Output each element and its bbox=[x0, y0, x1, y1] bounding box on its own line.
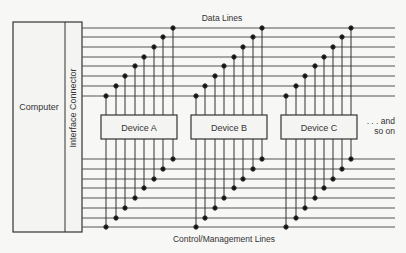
computer-block: Computer Interface Connector bbox=[13, 22, 82, 232]
device-b-label: Device B bbox=[211, 123, 247, 133]
device-a-label: Device A bbox=[121, 123, 157, 133]
device-b-box: Device B bbox=[191, 115, 267, 139]
bus-diagram: Computer Interface Connector bbox=[0, 0, 406, 253]
device-c-box: Device C bbox=[281, 115, 357, 139]
data-lines bbox=[82, 28, 395, 96]
continuation-label-line2: so on bbox=[374, 126, 395, 136]
computer-label: Computer bbox=[19, 102, 59, 112]
control-lines-label: Control/Management Lines bbox=[173, 234, 275, 244]
interface-connector-label: Interface Connector bbox=[68, 68, 78, 147]
data-lines-label: Data Lines bbox=[202, 13, 243, 23]
control-lines bbox=[82, 159, 395, 227]
device-a-box: Device A bbox=[101, 115, 177, 139]
continuation-label-line1: . . . and bbox=[367, 116, 396, 126]
device-c-label: Device C bbox=[301, 123, 338, 133]
